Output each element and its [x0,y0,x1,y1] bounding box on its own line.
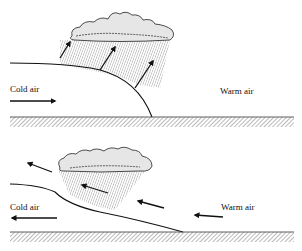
arrow-left-icon [138,201,164,208]
arrow-left-icon [28,163,52,172]
warm-air-label: Warm air [220,86,254,96]
warm-air-label: Warm air [221,202,255,212]
cloud-icon [59,147,152,172]
ground-hatch [10,232,294,242]
ground-hatch [10,117,294,127]
panel-bottom [10,147,294,242]
cold-air-label: Cold air [10,84,39,94]
cold-air-label: Cold air [10,202,39,212]
rain-area [58,170,146,210]
cloud-icon [70,12,173,41]
arrow-left-icon [195,215,223,217]
frontal-diagram [0,0,302,251]
panel-top [10,12,294,127]
